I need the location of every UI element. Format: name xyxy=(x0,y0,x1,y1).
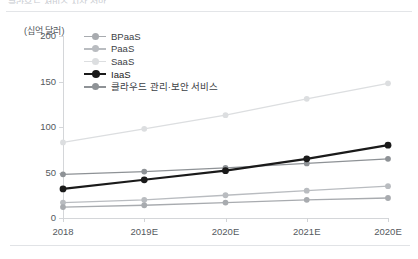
data-point xyxy=(304,197,310,203)
legend-item[interactable]: IaaS xyxy=(84,68,218,81)
data-point xyxy=(141,197,147,203)
x-tick-mark xyxy=(144,218,145,222)
data-point xyxy=(141,176,148,183)
data-point xyxy=(141,126,147,132)
data-point xyxy=(304,96,310,102)
data-point xyxy=(223,112,229,118)
legend-item[interactable]: PaaS xyxy=(84,43,218,56)
x-tick-label: 2021E xyxy=(279,226,335,237)
y-tick-label: 200 xyxy=(16,30,56,41)
data-point xyxy=(223,192,229,198)
legend-label: 클라우드 관리·보안 서비스 xyxy=(111,81,218,92)
y-tick-label: 100 xyxy=(16,121,56,132)
legend-label: IaaS xyxy=(111,69,131,80)
legend-item[interactable]: SaaS xyxy=(84,55,218,68)
legend-marker-icon xyxy=(84,43,106,54)
data-point xyxy=(141,202,147,208)
chart-legend: BPaaSPaaSSaaSIaaS클라우드 관리·보안 서비스 xyxy=(84,30,218,93)
legend-marker-icon xyxy=(84,81,106,92)
data-point xyxy=(304,188,310,194)
legend-marker-icon xyxy=(84,56,106,67)
footer-divider xyxy=(10,245,410,246)
cropped-caption: 클라우드 서비스 시장 전망 xyxy=(8,0,106,4)
data-point xyxy=(60,140,66,146)
x-tick-mark xyxy=(226,218,227,222)
x-tick-mark xyxy=(63,218,64,222)
data-point xyxy=(60,171,66,177)
legend-marker-icon xyxy=(84,69,106,80)
chart-figure: 클라우드 서비스 시장 전망 (십억 달러) 050100150200 2018… xyxy=(0,0,418,259)
data-point xyxy=(223,200,229,206)
data-point xyxy=(222,167,229,174)
data-point xyxy=(60,204,66,210)
x-tick-label: 2020E xyxy=(198,226,254,237)
legend-label: SaaS xyxy=(111,56,134,67)
legend-item[interactable]: 클라우드 관리·보안 서비스 xyxy=(84,80,218,93)
data-point xyxy=(385,195,391,201)
x-tick-mark xyxy=(388,218,389,222)
data-point xyxy=(303,155,310,162)
data-point xyxy=(385,156,391,162)
legend-item[interactable]: BPaaS xyxy=(84,30,218,43)
y-tick-label: 50 xyxy=(16,167,56,178)
y-tick-label: 0 xyxy=(16,212,56,223)
x-tick-label: 2019E xyxy=(116,226,172,237)
data-point xyxy=(60,185,67,192)
data-point xyxy=(385,142,392,149)
legend-marker-icon xyxy=(84,31,106,42)
y-tick-label: 150 xyxy=(16,76,56,87)
data-point xyxy=(141,169,147,175)
x-tick-label: 2018 xyxy=(35,226,91,237)
header-divider xyxy=(6,11,412,12)
data-point xyxy=(385,183,391,189)
x-tick-mark xyxy=(307,218,308,222)
data-point xyxy=(385,80,391,86)
x-tick-label: 2020E xyxy=(360,226,416,237)
legend-label: BPaaS xyxy=(111,31,141,42)
legend-label: PaaS xyxy=(111,43,134,54)
